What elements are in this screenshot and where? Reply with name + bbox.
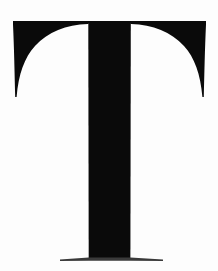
image-canvas: T Uppercase letter T Large black upperca… xyxy=(0,0,218,271)
letter-t-glyph xyxy=(0,0,218,271)
vertical-stem xyxy=(88,21,131,258)
